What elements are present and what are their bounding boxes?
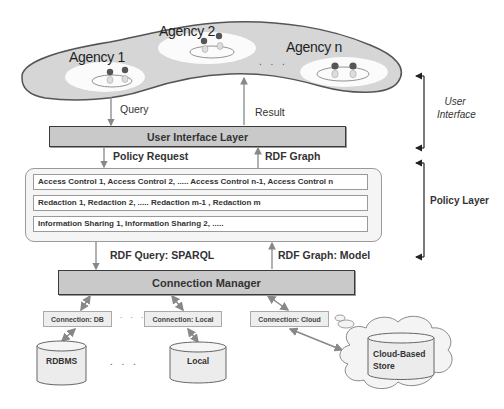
access-control-row: Access Control 1, Access Control 2, ....… — [33, 174, 368, 190]
query-label: Query — [120, 103, 149, 115]
connection-db: Connection: DB — [43, 311, 112, 327]
agency-n-node — [300, 57, 388, 87]
user-interface-bracket-label: User Interface — [437, 95, 473, 121]
cm-cloud-link — [268, 296, 288, 310]
rdf-query-label: RDF Query: SPARQL — [110, 249, 214, 261]
rdf-graph-model-label: RDF Graph: Model — [278, 249, 370, 261]
user-interface-layer: User Interface Layer — [49, 126, 346, 147]
local-store-link — [188, 329, 198, 342]
cloud-store-link — [290, 329, 342, 350]
local-store-label: Local — [187, 356, 209, 366]
policy-layer-bracket-label: Policy Layer — [430, 195, 489, 206]
connection-ellipsis: . . . — [120, 311, 146, 320]
cloud-store-label: Cloud-Based Store — [373, 348, 429, 372]
user-interface-bracket-line-2: Interface — [437, 108, 473, 121]
user-interface-bracket-line-1: User — [437, 95, 473, 108]
cm-local-link — [172, 296, 183, 310]
user-interface-bracket — [416, 76, 424, 148]
db-rdbms-link — [62, 329, 75, 341]
store-ellipsis: . . . — [110, 356, 139, 367]
rdf-graph-label: RDF Graph — [265, 150, 320, 162]
cm-db-link — [81, 296, 90, 310]
agency-2-label: Agency 2 — [159, 23, 215, 39]
rdbms-label: RDBMS — [46, 356, 77, 366]
policy-layer-bracket — [416, 163, 424, 257]
result-label: Result — [255, 106, 285, 118]
agency-1-label: Agency 1 — [69, 49, 125, 65]
agency-n-label: Agency n — [286, 39, 342, 55]
policy-layer-container: Access Control 1, Access Control 2, ....… — [25, 168, 382, 242]
connection-cloud: Connection: Cloud — [250, 311, 329, 327]
connection-local: Connection: Local — [144, 311, 222, 327]
redaction-row: Redaction 1, Redaction 2, ..... Redactio… — [33, 195, 368, 211]
agency-1-node — [65, 62, 145, 92]
information-sharing-row: Information Sharing 1, Information Shari… — [33, 216, 368, 232]
policy-request-label: Policy Request — [113, 150, 188, 162]
agency-ellipsis: . . . — [259, 56, 288, 67]
connection-manager: Connection Manager — [58, 270, 355, 295]
